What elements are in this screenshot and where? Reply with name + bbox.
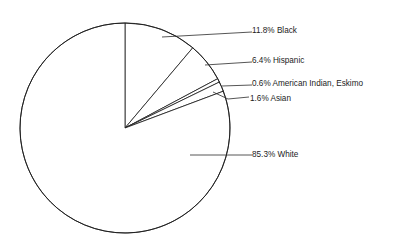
leader-line-hispanic bbox=[205, 62, 252, 65]
slice-label-white: 85.3% White bbox=[252, 150, 299, 159]
slice-labels: 11.8% Black6.4% Hispanic0.6% American In… bbox=[250, 26, 363, 159]
pie-chart-canvas: 11.8% Black6.4% Hispanic0.6% American In… bbox=[0, 0, 402, 246]
pie-wedges bbox=[20, 23, 230, 233]
leader-line-black bbox=[162, 32, 252, 37]
slice-label-american-indian-eskimo: 0.6% American Indian, Eskimo bbox=[252, 79, 363, 88]
slice-label-black: 11.8% Black bbox=[252, 26, 298, 35]
pie-chart-figure: 11.8% Black6.4% Hispanic0.6% American In… bbox=[0, 0, 402, 246]
slice-label-hispanic: 6.4% Hispanic bbox=[252, 56, 304, 65]
leader-line-american-indian-eskimo bbox=[222, 85, 252, 86]
slice-label-asian: 1.6% Asian bbox=[250, 94, 291, 103]
